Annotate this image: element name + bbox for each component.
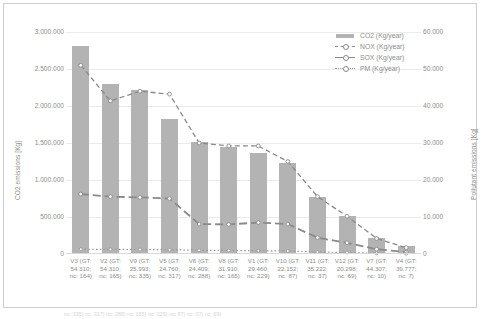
series-marker (79, 248, 82, 251)
series-marker (404, 246, 408, 250)
x-axis-category-label-line: 31.910; (214, 265, 243, 273)
dashed-line-marker (334, 42, 356, 51)
legend-label: CO2 (Kg/year) (360, 32, 404, 39)
bottom-cropped-text: nc: 335) nc: 317) nc: 288) nc: 165) nc: … (64, 311, 424, 319)
series-marker (345, 214, 349, 218)
y-axis-left-tick-label: 1.000.000 (18, 176, 64, 183)
x-axis-category-label-line: nc: 10) (362, 272, 391, 280)
legend-label: NOX (Kg/year) (360, 43, 405, 50)
legend-label: PM (Kg/year) (360, 65, 400, 72)
y-axis-right-tick-label: 10.000 (423, 213, 469, 220)
x-axis-category-label-line: 29.460; (244, 265, 273, 273)
x-axis-category-label-line: 24.760; (155, 265, 184, 273)
y-axis-left-tick-label: 0 (18, 250, 64, 257)
chart-legend: CO2 (Kg/year)NOX (Kg/year)SOX (Kg/year)P… (334, 30, 405, 74)
series-marker (256, 221, 260, 225)
series-marker (138, 89, 142, 93)
y-axis-right-tick-label: 60.000 (423, 28, 469, 35)
series-marker (168, 248, 171, 251)
solid-line-marker (334, 53, 356, 62)
x-axis-category-label-line: nc: 164) (66, 272, 95, 280)
legend-item[interactable]: NOX (Kg/year) (334, 41, 405, 52)
x-axis-category-label-line: V10 (GT: (273, 257, 302, 265)
x-axis-category-label: V12 (GT:20.298;nc: 69) (333, 257, 362, 280)
x-axis-category-labels: V3 (GT:54.310;nc: 164)V2 (GT:54.310;nc: … (66, 257, 421, 315)
x-axis-category-label-line: 20.298; (333, 265, 362, 273)
series-marker (109, 248, 112, 251)
x-axis-category-label-line: V8 (GT: (214, 257, 243, 265)
x-axis-category-label-line: V6 (GT: (185, 257, 214, 265)
series-marker (316, 236, 320, 240)
legend-item[interactable]: PM (Kg/year) (334, 63, 405, 74)
y-axis-left-tick-label: 1.500.000 (18, 139, 64, 146)
series-marker (286, 222, 290, 226)
x-axis-category-label-line: V11 (GT: (303, 257, 332, 265)
x-axis-category-label-line: 35.222; (303, 265, 332, 273)
series-marker (79, 63, 83, 67)
x-axis-category-label-line: nc: 7) (392, 272, 421, 280)
series-marker (197, 141, 201, 145)
series-marker (227, 223, 231, 227)
series-marker (108, 99, 112, 103)
legend-label: SOX (Kg/year) (360, 54, 404, 61)
x-axis-category-label: V1 (GT:29.460;nc: 229) (244, 257, 273, 280)
x-axis-category-label-line: 39.777; (392, 265, 421, 273)
series-marker (375, 237, 379, 241)
x-axis-category-label: V3 (GT:54.310;nc: 164) (66, 257, 95, 280)
series-marker (227, 144, 231, 148)
x-axis-category-label: V8 (GT:31.910;nc: 165) (214, 257, 243, 280)
y-axis-right-tick-label: 20.000 (423, 176, 469, 183)
series-marker (286, 160, 290, 164)
x-axis-category-label-line: 54.310; (96, 265, 125, 273)
x-axis-category-label-line: 44.307; (362, 265, 391, 273)
series-marker (316, 195, 320, 199)
y-axis-right-title: Pollutant emissions [Kg] (470, 128, 477, 200)
x-axis-category-label-line: V1 (GT: (244, 257, 273, 265)
x-axis-category-label-line: V12 (GT: (333, 257, 362, 265)
chart-container: CO2 emissions [Kg] Pollutant emissions [… (3, 3, 477, 308)
x-axis-line (66, 253, 421, 254)
series-marker (227, 249, 230, 252)
y-axis-left-tick-label: 500.000 (18, 213, 64, 220)
x-axis-category-label: V10 (GT:22.152;nc: 87) (273, 257, 302, 280)
x-axis-category-label-line: V4 (GT: (392, 257, 421, 265)
dotted-line-marker (334, 64, 356, 73)
legend-item[interactable]: CO2 (Kg/year) (334, 30, 405, 41)
x-axis-category-label: V11 (GT:35.222;nc: 37) (303, 257, 332, 280)
series-line (81, 65, 406, 247)
series-marker (108, 195, 112, 199)
x-axis-category-label: V7 (GT:44.307;nc: 10) (362, 257, 391, 280)
x-axis-category-label-line: V9 (GT: (125, 257, 154, 265)
x-axis-category-label-line: nc: 288) (185, 272, 214, 280)
series-marker (197, 222, 201, 226)
x-axis-category-label-line: nc: 37) (303, 272, 332, 280)
x-axis-category-label-line: V5 (GT: (155, 257, 184, 265)
series-marker (168, 92, 172, 96)
series-marker (198, 249, 201, 252)
x-axis-category-label-line: nc: 317) (155, 272, 184, 280)
x-axis-category-label: V6 (GT:24.409;nc: 288) (185, 257, 214, 280)
series-marker (256, 144, 260, 148)
y-axis-left-tick-label: 3.000.000 (18, 28, 64, 35)
legend-item[interactable]: SOX (Kg/year) (334, 52, 405, 63)
series-marker (168, 197, 172, 201)
series-marker (375, 247, 379, 251)
x-axis-category-label: V9 (GT:25.993;nc: 335) (125, 257, 154, 280)
x-axis-category-label-line: nc: 69) (333, 272, 362, 280)
y-axis-left-tick-label: 2.000.000 (18, 102, 64, 109)
x-axis-category-label-line: 22.152; (273, 265, 302, 273)
x-axis-category-label-line: nc: 165) (214, 272, 243, 280)
y-axis-right-tick-label: 0 (423, 250, 469, 257)
x-axis-category-label-line: V3 (GT: (66, 257, 95, 265)
x-axis-category-label: V2 (GT:54.310;nc: 165) (96, 257, 125, 280)
series-marker (257, 249, 260, 252)
x-axis-category-label-line: V2 (GT: (96, 257, 125, 265)
y-axis-right-tick-label: 40.000 (423, 102, 469, 109)
x-axis-category-label-line: nc: 87) (273, 272, 302, 280)
y-axis-left-title: CO2 emissions [Kg] (14, 141, 21, 200)
x-axis-category-label-line: nc: 335) (125, 272, 154, 280)
series-marker (138, 195, 142, 199)
x-axis-category-label: V4 (GT:39.777;nc: 7) (392, 257, 421, 280)
x-axis-category-label-line: V7 (GT: (362, 257, 391, 265)
series-marker (79, 192, 83, 196)
